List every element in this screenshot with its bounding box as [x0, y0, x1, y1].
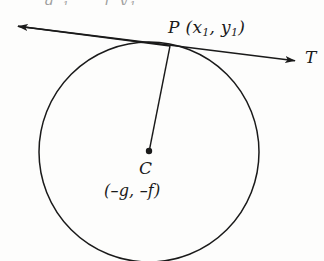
center-label: C: [139, 160, 152, 177]
tangent-point-letter: P: [168, 17, 180, 37]
tangent-point-comma: ,: [210, 17, 221, 37]
diagram-canvas: [0, 0, 324, 261]
center-point-dot: [146, 148, 152, 154]
circle-tangent-figure: g 1 f y1 P (x1, y1) T C (–g, –f): [0, 0, 324, 261]
radius-segment-group: [149, 46, 170, 152]
center-point-group: [146, 148, 152, 154]
tangent-point-x-var: x: [192, 17, 202, 37]
radius-line-CP: [149, 46, 170, 152]
tangent-point-open-paren: (: [180, 17, 193, 37]
tangent-point-y-var: y: [221, 17, 231, 37]
center-coordinates-label: (–g, –f): [104, 183, 160, 199]
tangent-line-label: T: [305, 49, 316, 66]
tangent-point-label: P (x1, y1): [168, 19, 245, 38]
tangent-line-group: [18, 26, 295, 61]
tangent-point-x-subscript: 1: [202, 26, 209, 39]
tangent-point-close-paren: ): [238, 17, 245, 37]
tangent-line-left-segment: [18, 26, 170, 46]
